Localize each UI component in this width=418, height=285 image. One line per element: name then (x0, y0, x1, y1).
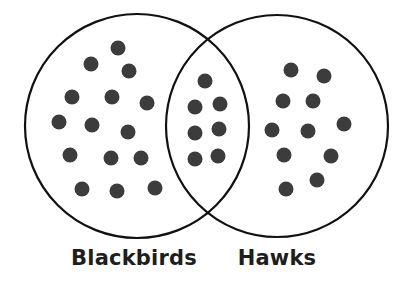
dot (105, 90, 120, 105)
dot (104, 151, 119, 166)
dot (84, 57, 99, 72)
dot (213, 97, 228, 112)
dot (198, 74, 213, 89)
dot (52, 115, 67, 130)
label-hawks: Hawks (238, 246, 317, 270)
dot (277, 148, 292, 163)
dot (306, 94, 321, 109)
dots-both (188, 74, 228, 167)
dot (317, 69, 332, 84)
dot (63, 148, 78, 163)
dot (122, 64, 137, 79)
dot (337, 117, 352, 132)
dot (110, 184, 125, 199)
dot (134, 151, 149, 166)
dot (212, 122, 227, 137)
dot (140, 96, 155, 111)
dot (85, 118, 100, 133)
dot (265, 123, 280, 138)
dot (148, 181, 163, 196)
dot (188, 152, 203, 167)
dot (310, 173, 325, 188)
dot (276, 94, 291, 109)
dot (65, 90, 80, 105)
dot (188, 100, 203, 115)
dots-hawks-only (265, 63, 352, 197)
dot (284, 63, 299, 78)
dot (188, 126, 203, 141)
dot (279, 182, 294, 197)
dot (111, 41, 126, 56)
dot (211, 149, 226, 164)
dot (324, 149, 339, 164)
dot (301, 124, 316, 139)
dots-blackbirds-only (52, 41, 163, 199)
label-blackbirds: Blackbirds (71, 246, 197, 270)
dot (75, 182, 90, 197)
venn-diagram (0, 0, 418, 285)
dot (121, 125, 136, 140)
